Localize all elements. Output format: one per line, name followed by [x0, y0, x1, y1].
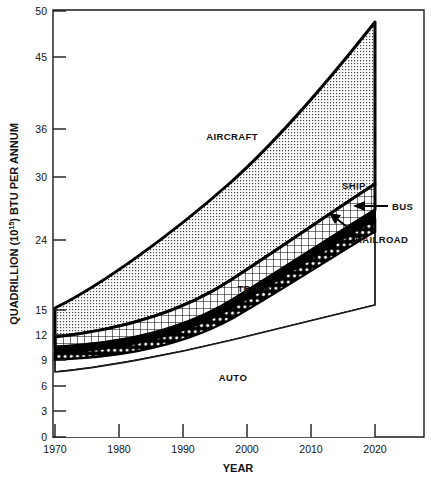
x-tick-label: 1980 — [107, 443, 131, 455]
series-label-railroad: RAILROAD — [355, 234, 408, 245]
y-axis-title-head: QUADRILLION (10 — [8, 230, 20, 325]
y-tick-label: 12 — [35, 329, 47, 341]
series-label-auto: AUTO — [219, 372, 247, 383]
y-tick-label: 9 — [41, 354, 47, 366]
y-axis-title-tail: ) BTU PER ANNUM — [8, 123, 20, 222]
chart-figure: 50 45 36 30 24 15 12 9 6 3 0 1970 1980 1… — [0, 0, 431, 478]
y-tick-label: 15 — [35, 304, 47, 316]
y-axis-title-exponent: 15 — [8, 222, 15, 230]
y-tick-label: 0 — [41, 431, 47, 443]
y-tick-label: 3 — [41, 405, 47, 417]
y-tick-label: 50 — [35, 5, 47, 17]
series-label-bus: BUS — [392, 201, 413, 212]
y-tick-label: 6 — [41, 380, 47, 392]
series-label-truck: TRUCK — [237, 283, 272, 294]
x-tick-label: 2010 — [299, 443, 323, 455]
y-tick-label: 30 — [35, 171, 47, 183]
x-tick-label: 1970 — [43, 443, 67, 455]
x-tick-label: 1990 — [171, 443, 195, 455]
x-tick-label: 2020 — [363, 443, 387, 455]
x-axis-title: YEAR — [223, 462, 254, 474]
y-tick-label: 45 — [35, 51, 47, 63]
y-tick-label: 24 — [35, 234, 47, 246]
x-tick-label: 2000 — [235, 443, 259, 455]
series-label-ship: SHIP — [342, 180, 366, 191]
series-label-aircraft: AIRCRAFT — [206, 131, 258, 142]
y-tick-label: 36 — [35, 123, 47, 135]
